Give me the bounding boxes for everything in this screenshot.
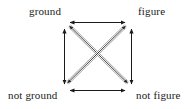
node-label-figure: figure	[138, 5, 165, 18]
semiotic-square-diagram: ground figure not ground not figure	[0, 0, 194, 109]
node-label-ground: ground	[29, 5, 61, 18]
node-label-not-ground: not ground	[8, 89, 57, 102]
node-label-not-figure: not figure	[136, 89, 181, 102]
diagonal-edges	[67, 25, 129, 84]
